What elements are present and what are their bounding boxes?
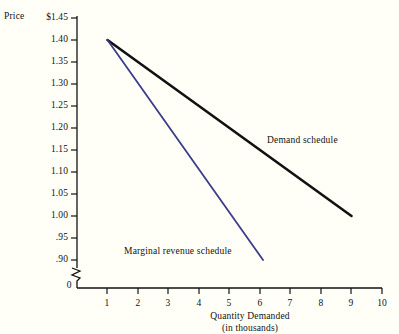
x-tick-label-5: 5 bbox=[219, 299, 239, 309]
x-axis-ticks bbox=[107, 288, 382, 294]
x-axis-title-line1: Quantity Demanded bbox=[180, 312, 320, 322]
x-tick-label-1: 1 bbox=[97, 299, 117, 309]
x-tick-label-10: 10 bbox=[372, 299, 392, 309]
x-tick-label-9: 9 bbox=[341, 299, 361, 309]
demand-schedule-label: Demand schedule bbox=[267, 136, 338, 146]
x-tick-label-8: 8 bbox=[311, 299, 331, 309]
y-tick-label-140: 1.40 bbox=[8, 35, 68, 45]
y-axis-ticks bbox=[71, 18, 77, 260]
y-tick-label-125: 1.25 bbox=[8, 101, 68, 111]
y-tick-label-105: 1.05 bbox=[8, 189, 68, 199]
x-tick-label-4: 4 bbox=[189, 299, 209, 309]
demand-schedule-line bbox=[108, 40, 352, 216]
y-tick-label-115: 1.15 bbox=[8, 145, 68, 155]
y-tick-label-095: .95 bbox=[8, 233, 68, 243]
y-tick-label-120: 1.20 bbox=[8, 123, 68, 133]
x-tick-label-2: 2 bbox=[128, 299, 148, 309]
marginal-revenue-schedule-line bbox=[108, 40, 264, 260]
y-tick-label-130: 1.30 bbox=[8, 79, 68, 89]
y-tick-label-100: 1.00 bbox=[8, 211, 68, 221]
x-tick-label-3: 3 bbox=[158, 299, 178, 309]
y-tick-label-135: 1.35 bbox=[8, 57, 68, 67]
y-tick-label-090: .90 bbox=[8, 255, 68, 265]
x-axis-title-line2: (in thousands) bbox=[180, 324, 320, 334]
x-tick-label-7: 7 bbox=[280, 299, 300, 309]
marginal-revenue-schedule-label: Marginal revenue schedule bbox=[124, 247, 232, 257]
y-tick-label-110: 1.10 bbox=[8, 167, 68, 177]
x-tick-label-6: 6 bbox=[250, 299, 270, 309]
y-tick-label-145: $1.45 bbox=[8, 13, 68, 23]
origin-label: 0 bbox=[62, 281, 76, 291]
